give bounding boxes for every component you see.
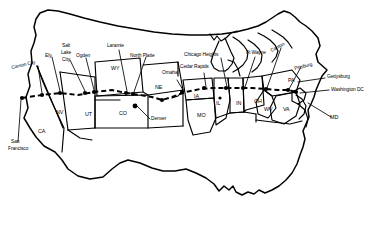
us-national-outline (24, 10, 327, 195)
city-label-chicago-heights: Chicago Heights (184, 52, 218, 57)
state-label-ia: IA (194, 94, 199, 100)
city-label-ft-wayne: Ft Wayne (246, 50, 266, 55)
city-label-ely: Ely (45, 53, 52, 58)
us-route-map: San Francisco Carson City Ely Salt Lake … (0, 0, 374, 233)
state-label-pa: PA (288, 78, 295, 84)
city-label-washington-dc: Washington DC (331, 87, 364, 92)
state-label-in: IN (236, 101, 241, 107)
city-label-gettysburg: Gettysburg (327, 74, 350, 79)
state-label-oh: OH (254, 99, 262, 105)
city-label-ogden: Ogden (76, 53, 90, 58)
state-label-mo: MO (197, 113, 205, 119)
state-label-wv: WV (264, 107, 272, 113)
city-label-omaha: Omaha (162, 70, 178, 75)
city-label-san-francisco: San (11, 139, 19, 144)
state-label-wy: WY (111, 66, 119, 72)
state-label-va: VA (283, 107, 290, 113)
city-label-san-francisco-line2: Francisco (8, 146, 28, 151)
map-graphic (0, 0, 374, 233)
state-label-co: CO (119, 111, 127, 117)
city-label-salt-lake-city-line3: City (62, 57, 70, 62)
city-label-salt-lake-city-line2: Lake (61, 50, 71, 55)
state-label-md: MD (330, 115, 338, 121)
city-label-denver: Denver (151, 116, 166, 121)
state-label-ne: NE (155, 85, 162, 91)
state-label-ut: UT (85, 112, 92, 118)
city-label-salt-lake-city-line1: Salt (62, 43, 70, 48)
city-label-cedar-rapids: Cedar Rapids (180, 64, 209, 69)
state-label-ca: CA (38, 129, 45, 135)
state-label-nv: NV (56, 110, 63, 116)
city-label-laramie: Laramie (107, 43, 124, 48)
city-label-north-platte: North Platte (130, 53, 155, 58)
state-label-il: IL (216, 101, 220, 107)
